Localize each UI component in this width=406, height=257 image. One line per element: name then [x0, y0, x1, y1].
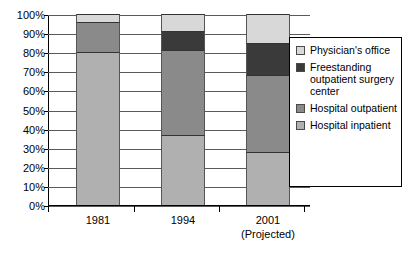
y-tick-label: 40%	[3, 125, 45, 136]
bar-segment	[161, 135, 205, 205]
x-axis-label-text: 1994	[171, 214, 195, 226]
legend-swatch-icon	[296, 104, 305, 113]
bar-segment	[246, 43, 290, 75]
x-tick-mark	[219, 206, 220, 212]
x-axis-label: 1994	[138, 213, 228, 227]
y-tick-label: 30%	[3, 144, 45, 155]
bar-segment	[76, 14, 120, 22]
bar-segment	[246, 75, 290, 151]
legend-swatch-icon	[296, 121, 305, 130]
y-tick-label: 90%	[3, 29, 45, 40]
y-tick-label: 80%	[3, 48, 45, 59]
x-tick-mark	[304, 206, 305, 212]
bar-1981	[76, 14, 120, 205]
x-axis-label-text: 2001	[256, 214, 280, 226]
bar-segment	[161, 50, 205, 135]
x-axis-label: 2001(Projected)	[223, 213, 313, 241]
plot-area	[48, 15, 310, 206]
legend-item: Hospital inpatient	[296, 119, 397, 131]
bar-1994	[161, 14, 205, 205]
legend-swatch-icon	[296, 63, 305, 72]
x-tick-mark	[134, 206, 135, 212]
x-axis-sublabel: (Projected)	[223, 227, 313, 241]
legend-item: Freestanding outpatient surgery center	[296, 61, 397, 97]
legend-label: Hospital outpatient	[310, 102, 397, 114]
bar-segment	[161, 14, 205, 31]
y-tick-label: 100%	[3, 10, 45, 21]
bar-segment	[161, 31, 205, 50]
legend-swatch-icon	[296, 46, 305, 55]
y-tick-label: 0%	[3, 201, 45, 212]
legend-label: Hospital inpatient	[310, 119, 391, 131]
legend-item: Physician's office	[296, 44, 397, 56]
y-tick-label: 50%	[3, 106, 45, 117]
bar-segment	[246, 14, 290, 43]
x-tick-mark	[48, 206, 49, 212]
y-tick-label: 20%	[3, 163, 45, 174]
y-axis-ticks: 0%10%20%30%40%50%60%70%80%90%100%	[0, 15, 45, 206]
x-axis-labels: 198119942001(Projected)	[48, 213, 310, 253]
y-tick-label: 70%	[3, 67, 45, 78]
y-tick-label: 10%	[3, 182, 45, 193]
bar-segment	[76, 52, 120, 205]
bar-2001	[246, 14, 290, 205]
y-tick-label: 60%	[3, 86, 45, 97]
bar-segment	[246, 152, 290, 205]
legend-label: Physician's office	[310, 44, 390, 56]
bar-segment	[76, 22, 120, 53]
x-axis-label: 1981	[53, 213, 143, 227]
legend-label: Freestanding outpatient surgery center	[310, 61, 397, 97]
x-axis-label-text: 1981	[86, 214, 110, 226]
legend-item: Hospital outpatient	[296, 102, 397, 114]
stacked-bar-chart: 0%10%20%30%40%50%60%70%80%90%100% 198119…	[0, 0, 406, 257]
chart-legend: Physician's officeFreestanding outpatien…	[289, 37, 402, 187]
